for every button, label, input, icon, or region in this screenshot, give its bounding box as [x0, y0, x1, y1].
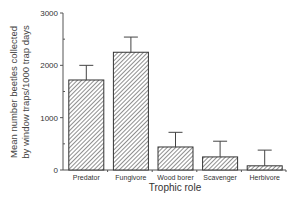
category-label: Herbivore: [250, 174, 280, 181]
bar-wood-borer: [158, 132, 193, 170]
category-labels: PredatorFungivoreWood borerScavengerHerb…: [73, 174, 280, 182]
y-axis-title-line-2: by window traps/1000 trap days: [20, 25, 31, 159]
bar-herbivore: [247, 150, 282, 170]
y-axis-title-line-1: Mean number beetles collected: [8, 26, 19, 158]
bar-predator: [69, 65, 104, 170]
bar-chart: Mean number beetles collected by window …: [0, 0, 302, 202]
bars: [69, 37, 282, 170]
category-label: Scavenger: [203, 174, 237, 182]
category-label: Wood borer: [157, 174, 194, 181]
category-label: Fungivore: [115, 174, 146, 182]
y-tick-label: 1000: [40, 114, 58, 123]
y-tick-label: 2000: [40, 61, 58, 70]
category-label: Predator: [73, 174, 101, 181]
bar-fungivore: [113, 37, 148, 170]
y-axis-title: Mean number beetles collected by window …: [8, 25, 31, 159]
y-tick-label: 3000: [40, 9, 58, 18]
bar-scavenger: [203, 141, 238, 170]
y-tick-label: 0: [54, 166, 59, 175]
y-axis: 0100020003000: [40, 9, 65, 175]
x-axis-title: Trophic role: [149, 182, 202, 193]
